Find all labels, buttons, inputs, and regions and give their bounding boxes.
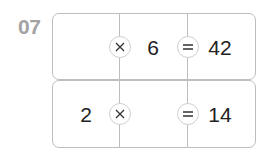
row2-result: 14: [200, 103, 240, 127]
column-divider-multiply: [119, 13, 120, 148]
problem-number-label: 07: [18, 15, 40, 39]
row1-operand-b: 6: [133, 36, 173, 60]
row1-result: 42: [200, 36, 240, 60]
equals-icon: [177, 103, 199, 125]
equals-icon: [177, 36, 199, 58]
multiply-icon: [109, 103, 131, 125]
row2-operand-a: 2: [66, 103, 106, 127]
column-divider-equals: [187, 13, 188, 148]
multiply-icon: [109, 36, 131, 58]
